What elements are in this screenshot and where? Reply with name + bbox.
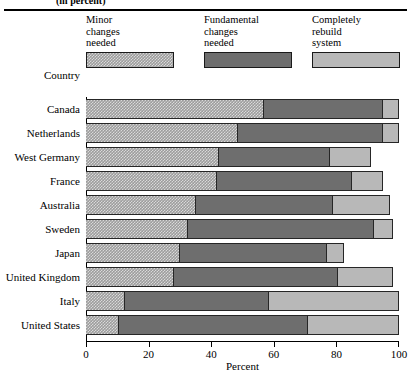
legend-item-rebuild: Completely rebuild system [312, 14, 411, 68]
bar-segment [86, 243, 180, 263]
bar-row [86, 123, 399, 143]
bar-row [86, 243, 399, 263]
bar-segment [330, 147, 371, 167]
bar-segment [86, 219, 188, 239]
x-tick-label: 100 [391, 348, 408, 360]
legend-label-rebuild: Completely rebuild system [312, 14, 411, 49]
bar-segment [219, 147, 330, 167]
bar-row [86, 267, 399, 287]
bar-segment [352, 171, 383, 191]
bar-segment [327, 243, 344, 263]
bar-row [86, 147, 399, 167]
category-label-united-states: United States [21, 315, 80, 335]
legend-label-fundamental: Fundamental changes needed [204, 14, 324, 49]
x-tick-label: 0 [83, 348, 89, 360]
x-tick [86, 342, 87, 347]
category-label-sweden: Sweden [45, 219, 80, 239]
bar-row [86, 195, 399, 215]
bar-segment [86, 171, 217, 191]
chart-subtitle-strip: (in percent) [0, 0, 411, 9]
bar-row [86, 219, 399, 239]
bar-row [86, 315, 399, 335]
rebuild-swatch-icon [312, 52, 400, 68]
bar-segment [333, 195, 389, 215]
legend-item-minor: Minor changes needed [86, 14, 206, 68]
bar-row [86, 99, 399, 119]
x-tick [274, 342, 275, 347]
x-tick [149, 342, 150, 347]
plot-area [86, 97, 399, 342]
title-divider [4, 9, 407, 11]
category-label-united-kingdom: United Kingdom [6, 267, 80, 287]
x-axis-title: Percent [86, 360, 399, 372]
category-labels: CanadaNetherlandsWest GermanyFranceAustr… [0, 97, 84, 342]
bar-segment [383, 99, 399, 119]
category-label-japan: Japan [55, 243, 80, 263]
bar-segment [269, 291, 399, 311]
bar-segment [188, 219, 374, 239]
legend-label-minor: Minor changes needed [86, 14, 206, 49]
legend-item-fundamental: Fundamental changes needed [204, 14, 324, 68]
bar-segment [86, 291, 125, 311]
bar-segment [180, 243, 327, 263]
x-tick-label: 20 [143, 348, 154, 360]
y-axis-title: Country [0, 69, 80, 81]
category-label-france: France [50, 171, 80, 191]
bar-segment [338, 267, 393, 287]
x-tick [336, 342, 337, 347]
bar-segment [383, 123, 399, 143]
bar-segment [264, 99, 383, 119]
bar-segment [196, 195, 334, 215]
bar-segment [174, 267, 338, 287]
bar-segment [374, 219, 393, 239]
category-label-canada: Canada [47, 99, 80, 119]
x-tick-label: 60 [268, 348, 279, 360]
x-tick-label: 40 [206, 348, 217, 360]
bar-segment [125, 291, 269, 311]
bar-segment [238, 123, 384, 143]
category-label-australia: Australia [40, 195, 80, 215]
bar-segment [308, 315, 399, 335]
bar-segment [86, 99, 264, 119]
chart-subtitle: (in percent) [56, 0, 106, 6]
bar-segment [217, 171, 352, 191]
fundamental-swatch-icon [204, 52, 292, 68]
bar-segment [119, 315, 308, 335]
bar-segment [86, 315, 119, 335]
x-tick-label: 80 [331, 348, 342, 360]
bar-segment [86, 147, 219, 167]
bar-segment [86, 195, 196, 215]
category-label-italy: Italy [60, 291, 80, 311]
bar-segment [86, 267, 174, 287]
minor-swatch-icon [86, 52, 174, 68]
bar-segment [86, 123, 238, 143]
category-label-west-germany: West Germany [15, 147, 80, 167]
category-label-netherlands: Netherlands [27, 123, 80, 143]
bar-row [86, 291, 399, 311]
bar-row [86, 171, 399, 191]
x-tick [211, 342, 212, 347]
x-tick [398, 342, 399, 347]
